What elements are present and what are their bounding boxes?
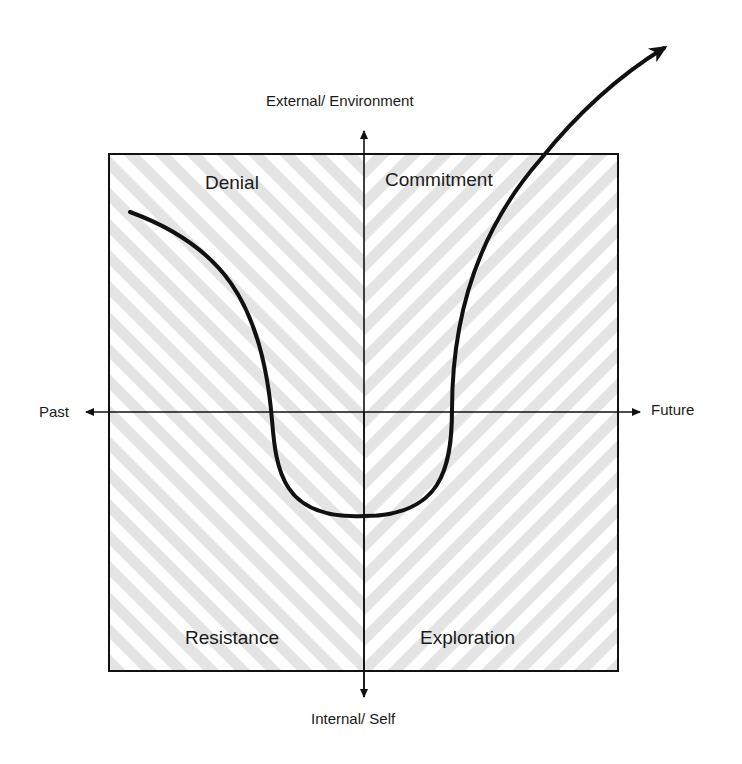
quadrant-label-exploration: Exploration xyxy=(420,627,515,649)
axis-label-right: Future xyxy=(651,401,694,418)
quadrant-label-resistance: Resistance xyxy=(185,627,279,649)
quadrant-label-commitment: Commitment xyxy=(385,169,493,191)
change-curve-diagram xyxy=(0,0,742,764)
axis-label-bottom: Internal/ Self xyxy=(311,710,395,727)
quadrant-label-denial: Denial xyxy=(205,172,259,194)
axis-label-top: External/ Environment xyxy=(266,92,414,109)
axis-label-left: Past xyxy=(39,403,69,420)
